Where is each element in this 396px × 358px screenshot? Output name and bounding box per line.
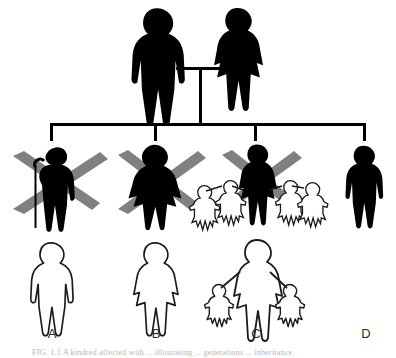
child-d-group xyxy=(345,146,383,229)
outline-figure-a xyxy=(31,243,73,336)
pedigree-diagram: A B C D xyxy=(0,0,396,358)
child-b-group xyxy=(118,145,206,231)
outline-figure-b xyxy=(134,243,178,336)
child-c-group xyxy=(190,145,328,230)
child-c-offspring-right-outer xyxy=(298,183,328,227)
generation-children-affected xyxy=(13,145,383,232)
label-c: C xyxy=(251,326,260,341)
generation-outline-row xyxy=(31,240,305,341)
child-a-group xyxy=(13,147,108,231)
child-d-affected-figure xyxy=(345,146,383,229)
pedigree-canvas: A B C D xyxy=(0,0,396,358)
outline-figure-c-child-left xyxy=(205,285,234,327)
label-a: A xyxy=(48,326,57,341)
label-b: B xyxy=(152,326,161,341)
pedigree-connectors xyxy=(50,68,366,141)
parent-father-affected xyxy=(131,8,184,125)
child-c-affected-figure xyxy=(239,145,277,226)
child-c-offspring-left-outer xyxy=(190,186,220,230)
parent-mother-affected xyxy=(214,8,263,111)
generation-parents xyxy=(131,8,263,125)
label-d: D xyxy=(361,326,370,341)
generation-letter-labels: A B C D xyxy=(48,326,371,341)
